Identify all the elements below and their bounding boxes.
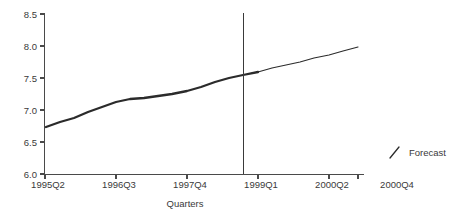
y-tick-label-8-5: 8.5 bbox=[24, 9, 37, 20]
x-tick-label-1995q2: 1995Q2 bbox=[31, 179, 65, 190]
x-tick-label-1996q3: 1996Q3 bbox=[102, 179, 136, 190]
y-axis: 8.5 8.0 7.5 7.0 6.5 6.0 bbox=[24, 9, 45, 180]
x-tick-label-2000q2: 2000Q2 bbox=[315, 179, 349, 190]
x-axis: 1995Q2 1996Q3 1997Q4 1999Q1 2000Q2 2000Q… bbox=[31, 174, 414, 209]
y-tick-label-7-5: 7.5 bbox=[24, 73, 37, 84]
x-tick-label-1997q4: 1997Q4 bbox=[173, 179, 207, 190]
plot-area bbox=[46, 13, 358, 174]
legend-forecast-marker-icon bbox=[390, 147, 399, 158]
quarterly-line-chart: 8.5 8.0 7.5 7.0 6.5 6.0 1995Q2 1996Q3 bbox=[0, 0, 473, 219]
x-tick-label-2000q4: 2000Q4 bbox=[380, 179, 414, 190]
legend: Forecast bbox=[390, 147, 446, 158]
y-axis-labels: 8.5 8.0 7.5 7.0 6.5 6.0 bbox=[24, 9, 37, 180]
y-tick-label-7-0: 7.0 bbox=[24, 105, 37, 116]
y-tick-label-6-0: 6.0 bbox=[24, 169, 37, 180]
y-tick-label-6-5: 6.5 bbox=[24, 137, 37, 148]
series-line-forecast bbox=[258, 47, 358, 72]
y-tick-label-8-0: 8.0 bbox=[24, 41, 37, 52]
chart-canvas: 8.5 8.0 7.5 7.0 6.5 6.0 1995Q2 1996Q3 bbox=[0, 0, 473, 219]
x-tick-label-1999q1: 1999Q1 bbox=[244, 179, 278, 190]
x-axis-labels: 1995Q2 1996Q3 1997Q4 1999Q1 2000Q2 2000Q… bbox=[31, 179, 414, 190]
legend-forecast-label: Forecast bbox=[409, 147, 446, 158]
series-line-actual bbox=[46, 72, 258, 127]
x-axis-title: Quarters bbox=[167, 198, 204, 209]
